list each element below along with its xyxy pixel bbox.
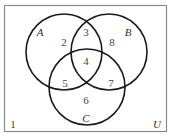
set-b-label: B [125,26,132,38]
region-a-b-label: 3 [83,26,89,38]
region-a-c-label: 5 [62,77,68,89]
set-a-label: A [36,26,44,38]
set-c-label: C [82,112,90,124]
region-b-c-label: 7 [108,77,114,89]
venn-diagram: A B C 1 2 3 4 5 6 7 8 U [0,0,172,137]
region-c-only-label: 6 [83,94,89,106]
region-a-only-label: 2 [61,36,67,48]
region-outside-label: 1 [10,118,16,130]
universe-label: U [153,118,162,130]
region-b-only-label: 8 [109,36,115,48]
region-a-b-c-label: 4 [83,55,89,67]
